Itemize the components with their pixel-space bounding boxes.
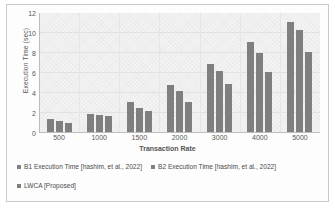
x-tick-label: 5000 — [280, 134, 320, 141]
x-tick-label: 1000 — [79, 134, 119, 141]
bar-group — [247, 13, 272, 133]
bar — [145, 111, 152, 133]
legend-label: B1 Execution Time [hashim, et al., 2022] — [24, 163, 142, 170]
chart-figure: Execution Time (sec) 024681012 500100015… — [0, 0, 335, 208]
bar-group — [167, 13, 192, 133]
bar-group — [207, 13, 232, 133]
bar — [176, 91, 183, 133]
x-tick-label: 4000 — [240, 134, 280, 141]
chart-frame: Execution Time (sec) 024681012 500100015… — [6, 4, 329, 202]
legend-item[interactable]: B1 Execution Time [hashim, et al., 2022] — [17, 163, 142, 170]
legend-swatch-icon — [17, 184, 21, 188]
bar — [265, 72, 272, 133]
chart-legend: B1 Execution Time [hashim, et al., 2022]… — [17, 163, 317, 189]
x-tick-label: 2000 — [159, 134, 199, 141]
bar — [296, 30, 303, 133]
bar — [287, 22, 294, 133]
bar — [167, 85, 174, 133]
bar-group — [127, 13, 152, 133]
y-tick-label: 0 — [32, 130, 36, 137]
bar — [185, 102, 192, 133]
y-tick-label: 12 — [28, 10, 36, 17]
x-tick-label: 3000 — [200, 134, 240, 141]
y-tick-label: 10 — [28, 29, 36, 36]
legend-swatch-icon — [17, 165, 21, 169]
bar — [256, 53, 263, 133]
bar — [87, 114, 94, 133]
bar — [47, 119, 54, 133]
bar — [96, 115, 103, 133]
y-tick-label: 4 — [32, 89, 36, 96]
legend-label: B2 Execution Time [hashim, et al., 2022] — [158, 163, 276, 170]
bar — [105, 116, 112, 133]
bar-groups — [39, 13, 320, 133]
bar — [225, 84, 232, 133]
x-axis-ticks: 500100015002000300040005000 — [39, 134, 320, 141]
y-axis-title: Execution Time (sec) — [22, 6, 29, 116]
x-tick-label: 500 — [39, 134, 79, 141]
legend-item[interactable]: B2 Execution Time [hashim, et al., 2022] — [151, 163, 276, 170]
bar-group — [287, 13, 312, 133]
bar-group — [47, 13, 72, 133]
bar — [136, 108, 143, 133]
bar-group — [87, 13, 112, 133]
bar — [207, 64, 214, 133]
x-axis-title: Transaction Rate — [7, 145, 328, 152]
y-axis-line — [39, 13, 40, 133]
bar — [305, 52, 312, 133]
x-axis-line — [39, 132, 320, 133]
bar — [247, 42, 254, 133]
y-tick-label: 6 — [32, 70, 36, 77]
legend-swatch-icon — [151, 165, 155, 169]
bar — [127, 102, 134, 133]
y-tick-label: 8 — [32, 49, 36, 56]
legend-label: LWCA [Proposed] — [24, 182, 76, 189]
x-tick-label: 1500 — [119, 134, 159, 141]
legend-item[interactable]: LWCA [Proposed] — [17, 182, 76, 189]
bar — [216, 71, 223, 133]
y-tick-label: 2 — [32, 110, 36, 117]
plot-canvas — [39, 13, 320, 133]
plot-area: 024681012 — [39, 13, 320, 133]
